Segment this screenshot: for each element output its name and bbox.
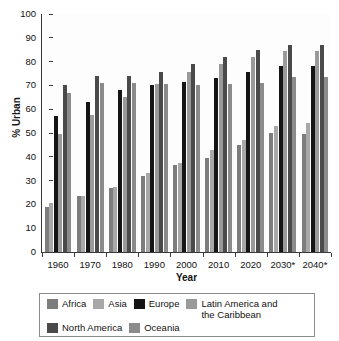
y-tick-label: 70	[12, 80, 36, 90]
bar-group	[203, 14, 235, 252]
bar	[49, 203, 53, 252]
bar	[242, 140, 246, 252]
legend: AfricaAsiaEuropeLatin America and the Ca…	[39, 293, 315, 337]
bar	[237, 145, 241, 252]
legend-label: Oceania	[144, 322, 179, 333]
legend-label: Africa	[62, 298, 86, 309]
bar	[320, 45, 324, 252]
bar	[219, 64, 223, 252]
bar	[132, 83, 136, 252]
bar	[246, 72, 250, 252]
bar	[90, 115, 94, 252]
x-axis-tick-labels: 19601970198019902000201020202030*2040*	[42, 253, 331, 273]
plot-area: % Urban 1009080706050403020100 196019701…	[0, 0, 339, 288]
bar-group	[267, 14, 299, 252]
y-tick-label: 80	[12, 57, 36, 67]
y-axis-tick-labels: 1009080706050403020100	[12, 14, 36, 252]
bar	[54, 116, 58, 252]
bar	[306, 123, 310, 252]
bar	[113, 187, 117, 252]
bar	[302, 134, 306, 252]
bar-group	[138, 14, 170, 252]
bar	[223, 57, 227, 252]
bar-group	[170, 14, 202, 252]
y-tick-label: 50	[12, 128, 36, 138]
legend-entry: North America	[47, 322, 122, 333]
bar	[86, 102, 90, 252]
bar	[196, 85, 200, 252]
bar-group	[74, 14, 106, 252]
bar	[123, 97, 127, 252]
x-tick-mark	[203, 253, 204, 257]
y-tick-label: 20	[12, 199, 36, 209]
x-tick-mark	[74, 253, 75, 257]
legend-entry: Africa	[47, 298, 86, 309]
bar	[256, 50, 260, 252]
legend-swatch	[47, 299, 58, 309]
y-tick-label: 0	[12, 247, 36, 257]
legend-row: North AmericaOceania	[47, 322, 308, 333]
bar	[164, 84, 168, 252]
bar	[146, 173, 150, 252]
bar	[269, 133, 273, 252]
bar	[214, 78, 218, 252]
x-tick-mark	[170, 253, 171, 257]
bar	[63, 85, 67, 252]
bar	[205, 158, 209, 252]
legend-label: Asia	[108, 298, 126, 309]
chart-figure: % Urban 1009080706050403020100 196019701…	[0, 0, 339, 341]
x-tick-mark	[235, 253, 236, 257]
x-tick-mark	[299, 253, 300, 257]
bar	[191, 64, 195, 252]
legend-entry: Oceania	[129, 322, 179, 333]
bar	[77, 196, 81, 252]
bar	[109, 188, 113, 252]
bar	[210, 150, 214, 252]
bar	[173, 165, 177, 252]
bar	[251, 57, 255, 252]
bar	[45, 207, 49, 252]
bar	[178, 163, 182, 252]
bar	[315, 51, 319, 252]
bar	[324, 77, 328, 252]
x-axis-title: Year	[42, 272, 331, 283]
bar	[155, 84, 159, 252]
legend-row: AfricaAsiaEuropeLatin America and the Ca…	[47, 298, 308, 320]
bar-group	[299, 14, 331, 252]
bar	[81, 196, 85, 252]
legend-entry: Asia	[93, 298, 126, 309]
legend-swatch	[93, 299, 104, 309]
x-tick-mark	[138, 253, 139, 257]
y-tick-label: 10	[12, 223, 36, 233]
x-tick-mark	[106, 253, 107, 257]
x-tick-mark	[42, 253, 43, 257]
bar	[67, 93, 71, 252]
legend-swatch	[186, 299, 197, 309]
bar	[95, 76, 99, 252]
legend-swatch	[134, 299, 145, 309]
y-tick-label: 60	[12, 104, 36, 114]
bar	[118, 90, 122, 252]
bar	[279, 66, 283, 252]
y-tick-label: 100	[12, 9, 36, 19]
bar	[141, 176, 145, 252]
bar	[311, 66, 315, 252]
x-tick-label: 2040*	[295, 259, 335, 270]
legend-entry: Latin America and the Caribbean	[186, 298, 277, 320]
bar	[228, 84, 232, 252]
bar	[288, 45, 292, 252]
bar	[187, 72, 191, 252]
bar	[150, 85, 154, 252]
bar	[100, 83, 104, 252]
x-tick-mark	[267, 253, 268, 257]
bar	[260, 83, 264, 252]
bar	[274, 126, 278, 252]
legend-label: Europe	[149, 298, 180, 309]
bar	[283, 51, 287, 252]
bar	[58, 134, 62, 252]
bar-group	[106, 14, 138, 252]
legend-label: Latin America and the Caribbean	[201, 298, 277, 320]
bar	[182, 82, 186, 252]
legend-entry: Europe	[134, 298, 180, 309]
legend-swatch	[129, 323, 140, 333]
